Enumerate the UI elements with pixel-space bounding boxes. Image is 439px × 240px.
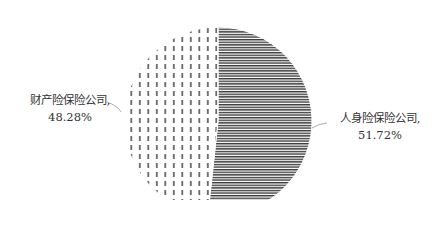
slice-label-value: 51.72% (330, 127, 430, 144)
pie-slice-0 (208, 27, 312, 200)
slice-label-name: 财产险保险公司, (20, 92, 120, 109)
slice-label-life-insurance: 人身险保险公司, 51.72% (330, 110, 430, 144)
slice-label-value: 48.28% (20, 109, 120, 126)
slice-label-name: 人身险保险公司, (330, 110, 430, 127)
slice-label-property-insurance: 财产险保险公司, 48.28% (20, 92, 120, 126)
pie-slice-1 (124, 27, 218, 200)
leader-line-right (312, 123, 327, 128)
